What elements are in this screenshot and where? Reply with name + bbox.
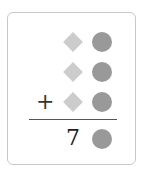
circle-icon xyxy=(92,129,112,149)
circle-icon xyxy=(92,32,112,52)
circle-icon xyxy=(92,62,112,82)
plus-operator: + xyxy=(36,91,54,113)
sum-line xyxy=(29,119,117,120)
result-digit: 7 xyxy=(66,127,80,149)
circle-icon xyxy=(92,92,112,112)
